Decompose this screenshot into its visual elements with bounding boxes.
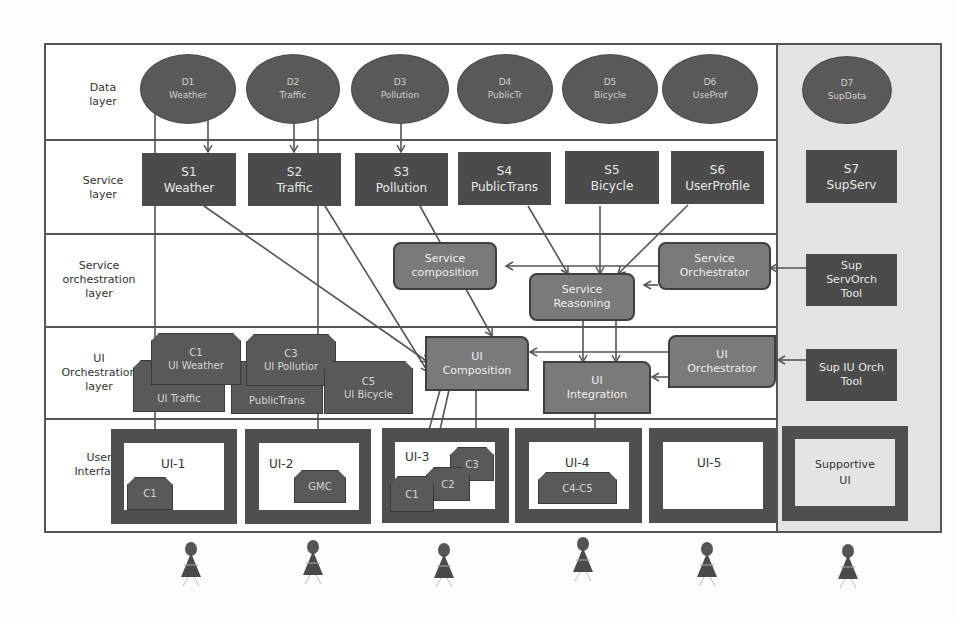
- ui-4-title: UI-4: [565, 456, 589, 470]
- user-interface-ui-3[interactable]: UI-3 C3 C2 C1: [382, 428, 509, 523]
- ui-3-title: UI-3: [405, 450, 429, 464]
- data-source-d6[interactable]: D6UseProf: [663, 55, 757, 123]
- ui-2-component-gmc[interactable]: GMC: [294, 470, 346, 503]
- ui-3-component-c1[interactable]: C1: [390, 476, 434, 512]
- service-s6[interactable]: S6UserProfile: [671, 151, 764, 204]
- service-s3[interactable]: S3Pollution: [355, 153, 448, 206]
- service-orchestrator-box[interactable]: Service Orchestrator: [658, 242, 771, 290]
- ui-component-c5-bicycle[interactable]: C5 UI Bicycle: [324, 361, 413, 414]
- service-s1[interactable]: S1Weather: [142, 153, 236, 206]
- data-source-d4[interactable]: D4PublicTr: [458, 55, 552, 123]
- data-source-d3[interactable]: D3Pollution: [352, 55, 448, 123]
- supportive-ui-canvas: Supportive UI: [795, 439, 895, 506]
- ui-integration-box[interactable]: UI Integration: [543, 361, 651, 414]
- ui-component-c3-pollution[interactable]: C3 UI Pollutior: [246, 334, 336, 386]
- service-s2[interactable]: S2Traffic: [248, 153, 341, 206]
- ui-4-component-c4-c5[interactable]: C4-C5: [538, 472, 617, 504]
- ui-orchestrator-box[interactable]: UI Orchestrator: [668, 335, 776, 388]
- data-source-d2[interactable]: D2Traffic: [247, 55, 339, 123]
- ui-5-canvas: [663, 442, 763, 509]
- data-source-d1[interactable]: D1Weather: [141, 55, 235, 123]
- sup-ui-orch-tool[interactable]: Sup IU Orch Tool: [806, 349, 897, 401]
- service-s4[interactable]: S4PublicTrans: [458, 152, 551, 205]
- service-s5[interactable]: S5Bicycle: [565, 151, 659, 204]
- ui-composition-box[interactable]: UI Composition: [425, 336, 529, 391]
- ui-2-title: UI-2: [269, 457, 293, 471]
- user-interface-ui-2[interactable]: UI-2 GMC: [245, 429, 371, 524]
- ui-component-c1-weather[interactable]: C1 UI Weather: [151, 333, 241, 385]
- service-s7[interactable]: S7SupServ: [806, 150, 897, 203]
- supportive-ui[interactable]: Supportive UI: [782, 426, 908, 521]
- ui-5-title: UI-5: [697, 456, 721, 470]
- user-interface-ui-4[interactable]: UI-4 C4-C5: [515, 428, 642, 523]
- sup-servorch-tool[interactable]: Sup ServOrch Tool: [806, 254, 897, 306]
- user-interface-ui-1[interactable]: UI-1 C1: [111, 429, 237, 524]
- user-interface-ui-5[interactable]: UI-5: [649, 428, 776, 523]
- data-source-d7[interactable]: D7SupData: [803, 57, 891, 123]
- service-reasoning-box[interactable]: Service Reasoning: [529, 273, 635, 321]
- ui-1-component-c1[interactable]: C1: [127, 477, 173, 510]
- ui-1-title: UI-1: [161, 457, 185, 471]
- data-source-d5[interactable]: D5Bicycle: [563, 55, 657, 123]
- service-composition-box[interactable]: Service composition: [393, 242, 497, 290]
